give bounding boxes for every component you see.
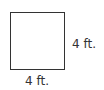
right-side-label: 4 ft. <box>72 38 96 50</box>
square-shape <box>10 12 65 70</box>
bottom-side-label: 4 ft. <box>25 75 49 87</box>
